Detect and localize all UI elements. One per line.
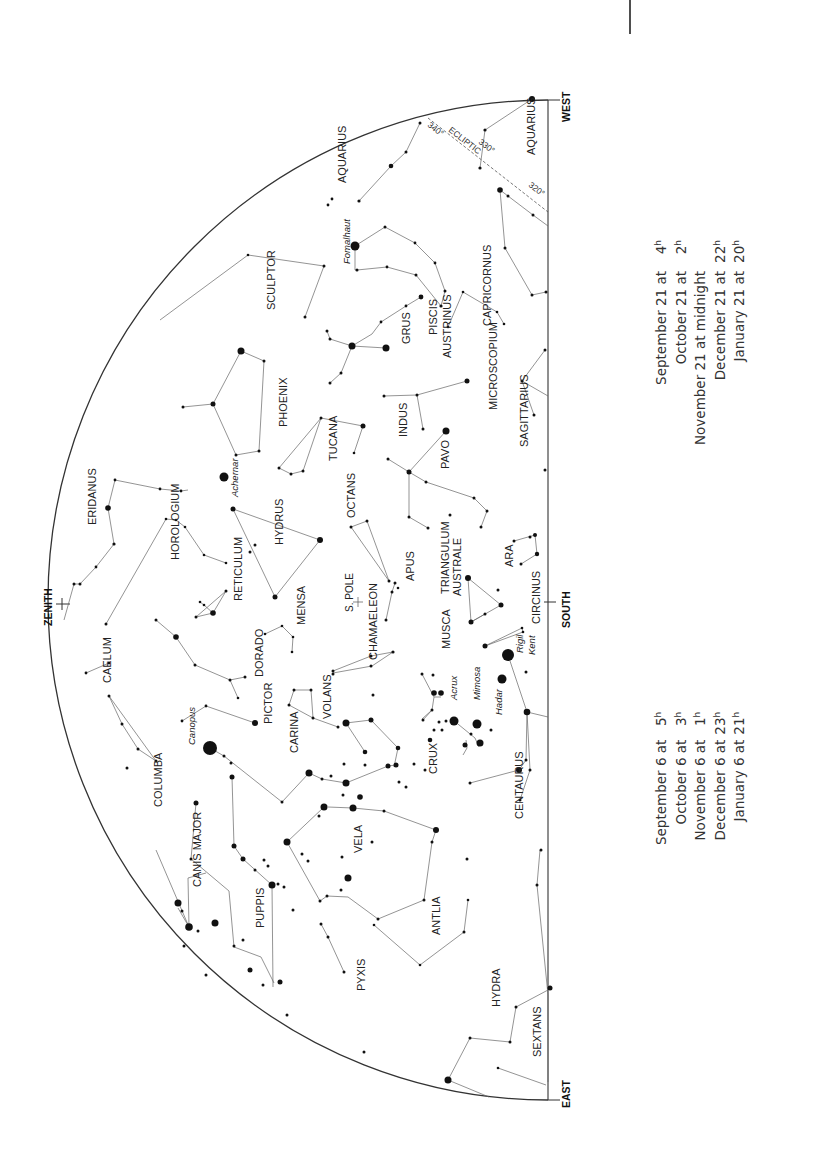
times-row: December 6 at23h: [711, 712, 731, 845]
star-label-acrux: Acrux: [448, 674, 459, 701]
times-hour: 21h: [730, 712, 750, 740]
constellation-label-triangulum: TRIANGULUM: [439, 521, 451, 594]
times-date: October 21 at: [672, 271, 692, 445]
times-hour: 4h: [652, 240, 672, 271]
constellation-label-ara: ARA: [503, 544, 515, 567]
ecliptic-mark-330: 330°: [477, 137, 497, 156]
direction-label-west: WEST: [560, 91, 572, 122]
constellation-label-sculptor: SCULPTOR: [265, 250, 277, 310]
constellation-label-pyxis: PYXIS: [355, 959, 367, 991]
constellation-label-indus: INDUS: [397, 403, 409, 437]
star-label-canopus: Canopus: [186, 707, 197, 745]
constellation-labels: AQUARIUSAQUARIUSPISCISAUSTRINUSCAPRICORN…: [86, 98, 543, 1057]
direction-labels: WESTSOUTHEASTZENITH: [42, 91, 572, 1108]
constellation-label-centaurus: CENTAURUS: [513, 751, 525, 819]
ecliptic-mark-320: 320°: [527, 180, 547, 199]
times-date: January 21 at: [730, 271, 750, 445]
constellation-label-chamaeleon: CHAMAELEON: [367, 583, 379, 660]
constellation-label-musca: MUSCA: [440, 609, 452, 649]
constellation-label-circinus: CIRCINUS: [530, 571, 542, 624]
times-row: September 21 at4h: [652, 240, 672, 445]
constellation-label-tucana: TUCANA: [327, 415, 339, 461]
constellation-label-columba: COLUMBA: [152, 752, 164, 807]
constellation-label-aquarius: AQUARIUS: [336, 126, 348, 183]
constellation-label-microscopium: MICROSCOPIUM: [487, 322, 499, 410]
times-row: January 6 at21h: [730, 712, 750, 845]
constellation-label-dorado: DORADO: [253, 628, 265, 677]
star-label-fomalhaut: Fomalhaut: [341, 219, 352, 264]
times-hour: 5h: [652, 712, 672, 740]
times-row: January 21 at20h: [730, 240, 750, 445]
times-date: October 6 at: [672, 740, 692, 845]
constellation-label-crux: CRUX: [427, 742, 439, 774]
star-label-achernar: Achernar: [229, 458, 240, 498]
constellation-label-horologium: HOROLOGIUM: [169, 484, 181, 560]
constellation-label-puppis: PUPPIS: [254, 888, 266, 928]
constellation-label-hydra: HYDRA: [490, 968, 502, 1007]
times-date: December 6 at: [711, 740, 731, 845]
times-hour: 2h: [672, 240, 692, 271]
constellation-label-apus: APUS: [404, 551, 416, 581]
constellation-label-aquarius: AQUARIUS: [525, 98, 537, 155]
constellation-label-octans: OCTANS: [345, 473, 357, 518]
constellation-label-capricornus: CAPRICORNUS: [481, 245, 493, 326]
constellation-label-grus: GRUS: [400, 312, 412, 344]
times-date: September 6 at: [652, 740, 672, 845]
times-row: October 21 at2h: [672, 240, 692, 445]
times-date: January 6 at: [730, 740, 750, 845]
times-date: November 6 at: [691, 740, 711, 845]
times-hour: 20h: [730, 240, 750, 271]
times-date: December 21 at: [711, 271, 731, 445]
times-row: September 6 at5h: [652, 712, 672, 845]
star-label-hadar: Hadar: [493, 688, 504, 715]
constellation-label-mensa: MENSA: [295, 585, 307, 625]
constellation-label-piscis: PISCIS: [427, 299, 439, 335]
star-label-rigil: Rigil: [514, 634, 525, 653]
direction-label-east: EAST: [560, 1079, 572, 1108]
times-row: November 6 at1h: [691, 712, 711, 845]
ecliptic-mark-340: 340°: [426, 120, 446, 139]
constellation-label-caelum: CAELUM: [101, 637, 113, 683]
constellation-label-volans: VOLANS: [321, 674, 333, 719]
constellation-label-australe: AUSTRALE: [451, 538, 463, 596]
constellation-label-sextans: SEXTANS: [531, 1006, 543, 1057]
constellation-label-canis-major: CANIS MAJOR: [191, 812, 203, 887]
times-hour: 22h: [711, 240, 731, 271]
direction-label-south: SOUTH: [560, 591, 572, 628]
times-date: November 21 at midnight: [691, 271, 711, 445]
times-hour: 1h: [691, 712, 711, 740]
constellation-label-sagittarius: SAGITTARIUS: [518, 374, 530, 447]
constellation-label-carina: CARINA: [288, 711, 300, 753]
times-hour: 3h: [672, 712, 692, 740]
constellation-label-eridanus: ERIDANUS: [86, 468, 98, 525]
times-row: October 6 at3h: [672, 712, 692, 845]
constellation-label-antlia: ANTLIA: [430, 896, 442, 935]
times-table-6th: September 6 at5h October 6 at3h November…: [652, 712, 750, 845]
constellation-label-vela: VELA: [352, 824, 364, 853]
constellation-label-pictor: PICTOR: [262, 683, 274, 724]
constellation-label-pavo: PAVO: [439, 440, 451, 469]
times-row: December 21 at22h: [711, 240, 731, 445]
star-chart: WESTSOUTHEASTZENITH ECLIPTIC 340° 330° 3…: [0, 0, 815, 1163]
times-hour: [691, 240, 711, 271]
star-label-mimosa: Mimosa: [471, 667, 482, 700]
south-pole-label: S. POLE: [344, 573, 355, 612]
stars: [73, 96, 553, 1084]
constellation-label-reticulum: RETICULUM: [232, 537, 244, 601]
constellation-label-phoenix: PHOENIX: [277, 377, 289, 427]
times-row: November 21 at midnight: [691, 240, 711, 445]
constellation-label-hydrus: HYDRUS: [273, 499, 285, 545]
times-hour: 23h: [711, 712, 731, 740]
ecliptic-label: ECLIPTIC: [447, 125, 483, 156]
direction-label-zenith: ZENITH: [42, 588, 54, 626]
times-table-21st: September 21 at4h October 21 at2h Novemb…: [652, 240, 750, 445]
times-date: September 21 at: [652, 271, 672, 445]
star-label-kent: Kent: [526, 635, 537, 655]
constellation-label-austrinus: AUSTRINUS: [441, 294, 453, 358]
